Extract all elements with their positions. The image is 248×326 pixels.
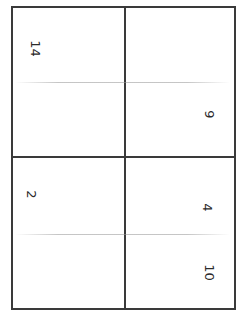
cell-number-top-right: 9 <box>203 110 216 118</box>
horizontal-divider <box>13 156 234 158</box>
faint-fold-line-top <box>15 82 230 83</box>
faint-fold-line-bottom <box>15 234 230 235</box>
cell-number-bottom-right-lower: 10 <box>203 264 216 281</box>
grid-sheet: 14 9 2 4 10 <box>11 6 236 310</box>
cell-number-bottom-left: 2 <box>25 190 38 198</box>
vertical-divider <box>124 8 126 308</box>
cell-number-bottom-right-upper: 4 <box>201 203 214 211</box>
cell-number-top-left: 14 <box>29 40 42 57</box>
